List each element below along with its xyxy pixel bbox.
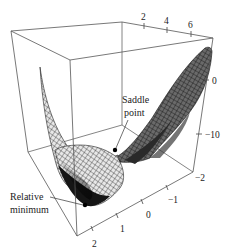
top-tick-label: 4 [164, 16, 169, 26]
front-tick-label: 0 [146, 210, 151, 220]
top-tick-label: 6 [188, 20, 193, 30]
relative-minimum-label: Relative [10, 191, 44, 202]
right-tick-label: 0 [212, 76, 217, 86]
saddle-point-label: Saddle [122, 94, 150, 105]
saddle-point-label: point [124, 107, 145, 118]
top-tick-label: 2 [141, 12, 146, 22]
surface-plot: 2 4 6 0 −10 2 1 0 −1 −2 Saddle point Rel… [0, 0, 232, 249]
saddle-point-marker [113, 148, 117, 152]
front-tick-label: 1 [120, 224, 125, 234]
front-tick-label: −2 [195, 173, 205, 183]
front-tick-label: 2 [92, 239, 97, 249]
relative-minimum-marker [83, 203, 87, 207]
relative-minimum-label: minimum [10, 204, 49, 215]
front-tick-label: −1 [168, 195, 178, 205]
right-tick-label: −10 [205, 130, 220, 140]
